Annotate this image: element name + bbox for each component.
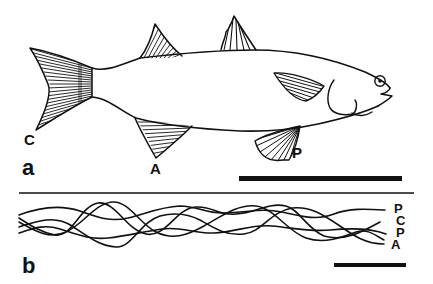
anal-fin <box>134 118 192 162</box>
panel-b-label: b <box>22 255 35 277</box>
pectoral-fin-label: P <box>292 145 302 160</box>
pectoral-fin <box>272 72 324 103</box>
second-dorsal-fin <box>221 16 256 50</box>
anal-fin-label: A <box>150 161 161 176</box>
caudal-fin-label: C <box>24 132 35 147</box>
panel-a-scale-bar <box>239 176 402 181</box>
trace-label-anal: A <box>391 238 400 251</box>
fish-mouth <box>378 88 392 106</box>
fish-body-dorsal-outline <box>92 50 390 88</box>
panel-b-scale-bar <box>334 263 406 267</box>
fish-illustration <box>28 16 392 162</box>
fish-fin-figure: C A P a P C P A b <box>0 0 433 284</box>
figure-drawing <box>0 0 433 284</box>
fish-body-ventral-outline <box>92 97 378 131</box>
fin-traces <box>19 202 386 247</box>
panel-a-label: a <box>22 157 34 179</box>
caudal-fin <box>28 48 92 130</box>
fish-operculum <box>328 80 357 115</box>
first-dorsal-fin <box>136 22 182 58</box>
trace-pectoral-1 <box>19 206 385 220</box>
